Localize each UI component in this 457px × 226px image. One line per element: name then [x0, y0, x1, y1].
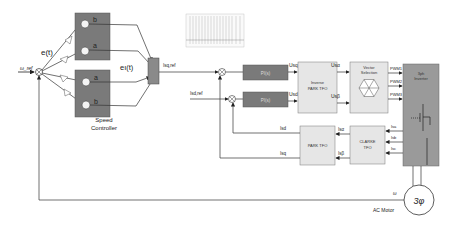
is-beta-label: Isβ [338, 151, 345, 156]
svg-text:PI(s): PI(s) [261, 98, 271, 103]
inverter-block: 3ph Inverter [403, 64, 439, 166]
us-beta-label: Usβ [331, 93, 340, 99]
svg-text:PARK TFO: PARK TFO [308, 86, 328, 91]
node-a-label: a [94, 74, 98, 81]
pwm3-label: PWM3 [390, 92, 403, 97]
error-label: e(t) [41, 48, 53, 57]
node-b-label: b [94, 98, 98, 105]
svg-text:Inverter: Inverter [414, 76, 428, 81]
usd-label: Usd [289, 91, 298, 97]
vector-selection-block: Vector Selection [350, 62, 388, 113]
speed-sum-junction [36, 69, 43, 76]
isc-label: Isc [391, 146, 396, 151]
pwm2-label: PWM2 [390, 79, 403, 84]
svg-text:3φ: 3φ [414, 196, 425, 206]
isb-label: Isb [391, 135, 397, 140]
speed-controller-bottom-unit: a b [75, 70, 110, 117]
svg-text:PI(s): PI(s) [261, 71, 271, 76]
isa-label: Isa [391, 124, 397, 129]
svg-text:CLARKE: CLARKE [359, 139, 375, 144]
gain-triangles [60, 36, 72, 96]
pi-block-d: PI(s) [243, 92, 288, 107]
ac-motor-label: AC Motor [373, 207, 394, 213]
svg-text:PARK TFO: PARK TFO [308, 143, 328, 148]
isd-ref-label: Isd,ref [190, 91, 203, 96]
clarke-block: CLARKE TFO [350, 126, 385, 164]
sum-junction-q [219, 69, 226, 76]
park-block: PARK TFO [300, 126, 335, 165]
mux-block [148, 58, 159, 84]
scope-plot [186, 14, 244, 47]
ac-motor: 3φ [404, 185, 434, 215]
isq-ref-label: Isq,ref [163, 63, 176, 68]
isd-label: Isd [280, 126, 287, 131]
svg-text:Selection: Selection [361, 70, 377, 75]
speed-controller-top-unit: b a [75, 13, 110, 60]
node-b-label: b [93, 16, 97, 23]
pi-block-q: PI(s) [243, 65, 288, 80]
speed-controller-label-2: Controller [91, 125, 117, 131]
sum-junction-d [229, 96, 236, 103]
pwm1-label: PWM1 [390, 66, 403, 71]
inverse-park-block: Inverse PARK TFO [298, 62, 337, 113]
foc-diagram: ω_ref e(t) b a a b Speed Controller eı(t… [0, 0, 457, 226]
speed-ref-label: ω_ref [20, 65, 33, 71]
isd-feedback-line [233, 103, 300, 133]
isq-feedback-line [220, 76, 300, 158]
svg-text:TFO: TFO [364, 145, 372, 150]
usq-label: Usq [289, 62, 298, 68]
isq-label: Isq [280, 151, 287, 156]
is-alpha-label: Isα [338, 127, 345, 132]
speed-controller-label-1: Speed [95, 117, 112, 123]
us-alpha-label: Usα [331, 62, 340, 68]
omega-label: ω [393, 191, 397, 196]
error-integral-label: eı(t) [120, 63, 134, 72]
node-a-label: a [93, 42, 97, 49]
svg-text:Inverse: Inverse [311, 80, 325, 85]
